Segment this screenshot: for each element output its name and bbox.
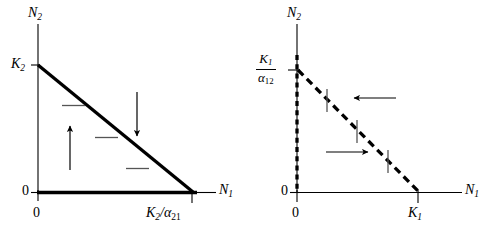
right-x-intercept-label: K1 bbox=[408, 206, 422, 222]
right-isocline-line bbox=[298, 70, 419, 192]
right-panel-graphics bbox=[288, 24, 462, 203]
right-y-axis-label: N2 bbox=[287, 6, 301, 22]
right-x-origin-label: 0 bbox=[292, 206, 299, 220]
left-y-origin-label: 0 bbox=[22, 184, 29, 198]
right-y-origin-label: 0 bbox=[281, 184, 288, 198]
competition-isocline-figure: N2 N1 K2 0 0 K2/α21 N2 N1 K1 α12 0 0 K1 bbox=[0, 0, 490, 239]
figure-canvas bbox=[0, 0, 490, 239]
left-x-axis-label: N1 bbox=[219, 183, 233, 199]
right-y-intercept-label: K1 α12 bbox=[256, 52, 276, 87]
left-y-intercept-label: K2 bbox=[11, 57, 25, 73]
left-y-axis-label: N2 bbox=[28, 6, 42, 22]
left-isocline-line bbox=[38, 65, 193, 192]
right-x-axis-label: N1 bbox=[465, 183, 479, 199]
left-panel-graphics bbox=[31, 24, 216, 203]
left-x-origin-label: 0 bbox=[33, 206, 40, 220]
left-x-intercept-label: K2/α21 bbox=[146, 206, 181, 222]
